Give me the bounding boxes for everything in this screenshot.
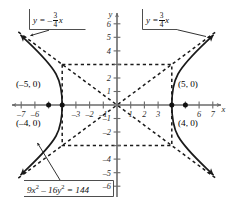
x-tick-1: 1 — [129, 110, 133, 119]
y-tick-2: 2 — [107, 74, 111, 83]
focus-left-dot — [46, 103, 51, 108]
vertex-left-dot — [60, 103, 65, 108]
asymptote-right-fraction: 34 — [159, 12, 165, 28]
asymptote-left-fraction: 34 — [53, 12, 59, 28]
right-label-leader — [178, 30, 207, 37]
y-tick-1: 1 — [107, 87, 111, 96]
eq-minus-coef: – 16 — [41, 185, 57, 195]
axes-group — [12, 13, 221, 197]
y-tick-4: 4 — [107, 47, 111, 56]
asymptote-left-suffix: x — [59, 15, 63, 25]
focus-right-dot — [183, 103, 188, 108]
equation-label: 9x2 – 16y2 = 144 — [27, 184, 89, 195]
left-label-leader — [31, 30, 50, 35]
eq-exp-1: 2 — [36, 183, 39, 190]
focus-right-label: (5, 0) — [178, 79, 198, 89]
x-tick-3: 3 — [155, 110, 160, 119]
asymptote-left-prefix: y = – — [33, 15, 52, 25]
asymptote-right-prefix: y = — [146, 15, 158, 25]
y-tick--1: –1 — [102, 114, 111, 123]
graph-canvas: –7 –6 –3 –2 –1 1 2 3 6 7 6 5 4 2 1 –1 –2… — [0, 0, 233, 205]
focus-left-label: (–5, 0) — [16, 79, 41, 89]
y-tick-6: 6 — [107, 20, 112, 29]
vertex-left-label: (–4, 0) — [16, 118, 41, 128]
eq-rhs: = 144 — [67, 185, 89, 195]
y-tick--4: –4 — [102, 155, 111, 164]
x-tick--2: –2 — [84, 110, 93, 119]
asymptote-left-label: y = –34x — [33, 12, 63, 28]
y-tick--5: –5 — [102, 169, 111, 178]
x-axis-label: x — [221, 104, 226, 114]
vertex-right-dot — [169, 103, 174, 108]
eq-exp-2: 2 — [61, 183, 64, 190]
x-tick-7: 7 — [211, 110, 216, 119]
y-tick-5: 5 — [107, 33, 111, 42]
y-tick--2: –2 — [102, 128, 111, 137]
equation-leader — [38, 143, 61, 180]
y-axis-label: y — [108, 9, 113, 19]
asymptote-right-label: y =34x — [146, 12, 169, 28]
vertex-right-label: (4, 0) — [178, 118, 198, 128]
asymptote-right-suffix: x — [165, 15, 169, 25]
hyperbola-figure: –7 –6 –3 –2 –1 1 2 3 6 7 6 5 4 2 1 –1 –2… — [0, 0, 233, 205]
x-tick--3: –3 — [71, 110, 80, 119]
x-tick-2: 2 — [142, 110, 146, 119]
y-tick--6: –6 — [102, 182, 112, 191]
